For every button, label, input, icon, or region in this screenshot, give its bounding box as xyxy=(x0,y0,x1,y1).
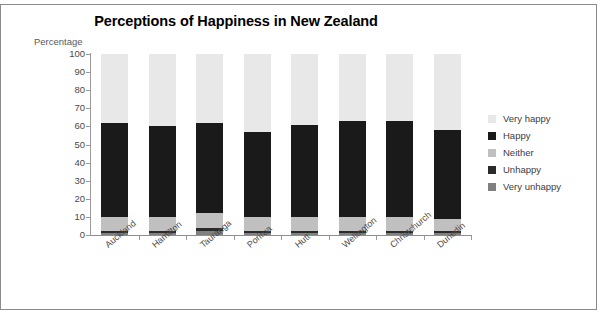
x-axis-tick xyxy=(281,235,282,240)
bar-hutt[interactable] xyxy=(291,54,318,235)
bar-wellington[interactable] xyxy=(339,54,366,235)
y-axis-tick-label: 0 xyxy=(55,229,85,240)
bar-segment xyxy=(244,132,271,217)
bar-segment xyxy=(101,123,128,217)
legend-label: Very happy xyxy=(503,113,551,124)
y-axis-tick xyxy=(86,54,91,55)
legend-item[interactable]: Very happy xyxy=(488,110,561,127)
plot-area xyxy=(91,54,471,235)
x-axis-tick xyxy=(139,235,140,240)
legend-swatch-icon xyxy=(488,132,496,140)
legend-swatch-icon xyxy=(488,115,496,123)
bar-segment xyxy=(149,126,176,217)
y-axis-tick xyxy=(86,163,91,164)
legend-swatch-icon xyxy=(488,183,496,191)
bar-segment xyxy=(149,54,176,126)
y-axis-tick xyxy=(86,199,91,200)
y-axis-tick xyxy=(86,235,91,236)
bar-segment xyxy=(434,130,461,219)
bar-christchurch[interactable] xyxy=(386,54,413,235)
y-axis-tick xyxy=(86,145,91,146)
legend-item[interactable]: Unhappy xyxy=(488,161,561,178)
bar-segment xyxy=(291,54,318,125)
bar-segment xyxy=(196,123,223,214)
bar-hamilton[interactable] xyxy=(149,54,176,235)
y-axis-tick xyxy=(86,90,91,91)
bar-segment xyxy=(291,217,318,231)
bar-segment xyxy=(339,121,366,217)
bar-segment xyxy=(101,54,128,123)
y-axis-tick xyxy=(86,108,91,109)
x-axis-tick xyxy=(186,235,187,240)
y-axis-tick xyxy=(86,181,91,182)
bar-segment xyxy=(434,54,461,130)
y-axis-tick-label: 70 xyxy=(55,102,85,113)
bar-dunedin[interactable] xyxy=(434,54,461,235)
bar-porirua[interactable] xyxy=(244,54,271,235)
bar-segment xyxy=(196,54,223,123)
x-axis-tick xyxy=(424,235,425,240)
bar-segment xyxy=(244,54,271,132)
x-axis-tick xyxy=(329,235,330,240)
y-axis-tick-label: 20 xyxy=(55,193,85,204)
legend-label: Neither xyxy=(503,147,534,158)
chart-legend: Very happyHappyNeitherUnhappyVery unhapp… xyxy=(488,110,561,195)
bar-segment xyxy=(291,125,318,217)
x-axis-tick xyxy=(376,235,377,240)
y-axis-tick-label: 40 xyxy=(55,157,85,168)
y-axis-tick-label: 80 xyxy=(55,84,85,95)
x-axis-tick xyxy=(234,235,235,240)
legend-item[interactable]: Very unhappy xyxy=(488,178,561,195)
legend-label: Unhappy xyxy=(503,164,541,175)
bar-segment xyxy=(386,121,413,217)
legend-swatch-icon xyxy=(488,166,496,174)
legend-swatch-icon xyxy=(488,149,496,157)
y-axis-title: Percentage xyxy=(34,36,83,47)
y-axis-tick-label: 50 xyxy=(55,139,85,150)
y-axis-tick-label: 60 xyxy=(55,120,85,131)
y-axis-tick-label: 30 xyxy=(55,175,85,186)
legend-label: Very unhappy xyxy=(503,181,561,192)
bar-segment xyxy=(339,54,366,121)
bar-segment xyxy=(386,54,413,121)
legend-label: Happy xyxy=(503,130,530,141)
x-axis-tick xyxy=(471,235,472,240)
legend-item[interactable]: Happy xyxy=(488,127,561,144)
legend-item[interactable]: Neither xyxy=(488,144,561,161)
y-axis-tick-label: 90 xyxy=(55,66,85,77)
chart-frame: Perceptions of Happiness in New Zealand … xyxy=(0,4,597,310)
chart-title: Perceptions of Happiness in New Zealand xyxy=(1,13,471,29)
y-axis-tick xyxy=(86,126,91,127)
bar-tauranga[interactable] xyxy=(196,54,223,235)
y-axis-tick-label: 10 xyxy=(55,211,85,222)
y-axis-tick xyxy=(86,72,91,73)
y-axis-tick xyxy=(86,217,91,218)
bar-auckland[interactable] xyxy=(101,54,128,235)
y-axis-tick-label: 100 xyxy=(55,48,85,59)
